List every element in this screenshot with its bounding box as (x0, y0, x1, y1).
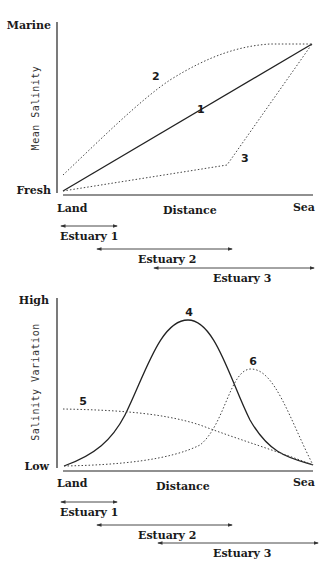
curve-label-5: 5 (79, 395, 87, 408)
x-label-land: Land (57, 477, 88, 490)
estuary-3-label: Estuary 3 (213, 547, 271, 560)
x-axis-title: Distance (156, 480, 210, 493)
x-label-sea: Sea (293, 201, 315, 214)
estuary-1-label: Estuary 1 (60, 230, 118, 243)
curve-2 (63, 44, 312, 175)
y-label-high: High (19, 294, 49, 307)
curve-label-3: 3 (241, 152, 249, 165)
curve-label-6: 6 (249, 355, 257, 368)
salinity-diagram: Marine Fresh Mean Salinity 1 2 3 Land Di… (0, 0, 334, 570)
x-label-land: Land (57, 202, 88, 215)
mean-salinity-chart: Marine Fresh Mean Salinity 1 2 3 Land Di… (7, 19, 315, 285)
y-label-low: Fresh (16, 184, 51, 197)
curve-4 (64, 320, 313, 466)
curve-label-2: 2 (152, 70, 160, 83)
salinity-variation-chart: High Low Salinity Variation 4 5 6 Land D… (19, 294, 318, 560)
estuary-3-label: Estuary 3 (213, 272, 271, 285)
x-axis-title: Distance (163, 204, 217, 217)
curve-label-4: 4 (185, 306, 193, 319)
curve-label-1: 1 (197, 103, 205, 116)
curve-5 (63, 409, 313, 465)
y-axis-title: Salinity Variation (30, 323, 41, 440)
y-axis-title: Mean Salinity (30, 66, 41, 151)
x-label-sea: Sea (293, 476, 315, 489)
estuary-2-label: Estuary 2 (138, 253, 196, 266)
y-label-high: Marine (7, 19, 51, 32)
y-label-low: Low (24, 460, 49, 473)
estuary-1-label: Estuary 1 (60, 506, 118, 519)
curve-1 (63, 44, 312, 191)
estuary-2-label: Estuary 2 (138, 529, 196, 542)
